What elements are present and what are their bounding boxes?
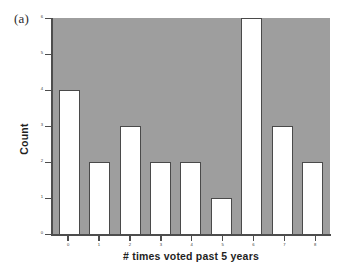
x-axis-tick: 8	[315, 235, 316, 241]
panel-label: (a)	[14, 11, 29, 27]
y-axis-tick: 6	[45, 18, 52, 19]
bar	[120, 126, 141, 234]
bar	[150, 162, 171, 234]
y-axis-tick-label: 2	[41, 158, 43, 163]
bar	[59, 90, 80, 234]
x-axis-tick: 6	[253, 235, 254, 241]
bar-series	[52, 18, 330, 234]
x-axis-tick-label: 7	[283, 242, 285, 247]
x-axis-tick: 1	[98, 235, 99, 241]
y-axis-tick-label: 4	[41, 86, 43, 91]
y-axis-tick-label: 3	[41, 122, 43, 127]
y-axis-tick-label: 5	[41, 50, 43, 55]
plot-area	[52, 18, 330, 234]
y-axis-tick-label: 6	[41, 14, 43, 19]
y-axis-tick: 3	[45, 126, 52, 127]
x-axis-tick: 4	[191, 235, 192, 241]
y-axis-tick: 1	[45, 198, 52, 199]
x-axis-tick: 0	[67, 235, 68, 241]
x-axis-tick: 3	[160, 235, 161, 241]
x-axis-tick: 7	[284, 235, 285, 241]
y-axis-title: Count	[18, 123, 30, 154]
bar	[272, 126, 293, 234]
x-axis-tick-label: 3	[160, 242, 162, 247]
x-axis-tick-label: 8	[314, 242, 316, 247]
bar	[211, 198, 232, 234]
x-axis-tick-label: 2	[129, 242, 131, 247]
x-axis-tick: 2	[129, 235, 130, 241]
x-axis-tick: 5	[222, 235, 223, 241]
x-axis-tick-label: 4	[191, 242, 193, 247]
y-axis-tick-label: 1	[41, 194, 43, 199]
x-axis-tick-label: 6	[252, 242, 254, 247]
bar	[241, 18, 262, 234]
y-axis-tick: 0	[45, 234, 52, 235]
bar	[180, 162, 201, 234]
x-axis-title: # times voted past 5 years	[52, 250, 330, 262]
bar-chart-figure: (a) Count 0123456 012345678 # times vote…	[0, 0, 337, 278]
bar	[302, 162, 323, 234]
x-axis-tick-label: 0	[67, 242, 69, 247]
y-axis-tick: 5	[45, 54, 52, 55]
bar	[89, 162, 110, 234]
x-axis-tick-label: 1	[98, 242, 100, 247]
y-axis-tick: 2	[45, 162, 52, 163]
x-axis-tick-label: 5	[221, 242, 223, 247]
y-axis-tick: 4	[45, 90, 52, 91]
y-axis-tick-label: 0	[41, 230, 43, 235]
